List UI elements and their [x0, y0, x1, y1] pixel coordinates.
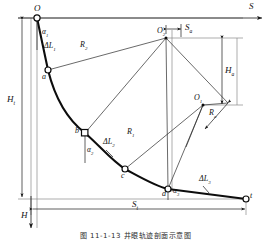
node-label-O1: O1 — [194, 94, 202, 105]
angle-reference-ticks — [37, 18, 168, 200]
node-t — [243, 196, 249, 202]
dimension-Sa — [166, 24, 181, 37]
dimension-label-Sa: Sa — [185, 23, 192, 34]
segment-label-delta-L2: ΔL2 — [103, 138, 115, 149]
node-label-c: c — [121, 172, 125, 180]
angle-label-alpha-1: α1 — [42, 28, 48, 38]
node-label-O2: O2 — [157, 27, 165, 38]
angle-label-alpha-3: α3 — [173, 187, 179, 197]
radius-label-R2: R2 — [80, 41, 87, 52]
segment-label-delta-L1: ΔL1 — [44, 42, 56, 53]
radius-label-Ra: Ra — [209, 109, 216, 120]
radius-label-R1: R1 — [127, 128, 134, 139]
segment-label-delta-L3: ΔL3 — [199, 175, 211, 186]
dimension-label-St: St — [132, 200, 138, 211]
curve-nodes — [34, 15, 249, 202]
angle-label-alpha-2: α2 — [87, 146, 93, 156]
node-O — [34, 15, 40, 21]
node-label-a: a — [42, 73, 46, 81]
node-label-b: b — [75, 127, 79, 135]
node-label-t: t — [250, 192, 252, 200]
figure-caption: 图 11-1-13 井眼轨迹剖面示意图 — [0, 230, 271, 240]
well-trajectory-diagram: S H O a b c d t O2 O1 α1 α2 α3 ΔL1 ΔL2 Δ… — [0, 0, 271, 241]
dimension-label-Ha: Ha — [225, 66, 234, 77]
node-b — [82, 130, 88, 136]
axis-label-H: H — [21, 211, 28, 220]
dimension-label-Ht: Ht — [7, 95, 15, 106]
radii-from-O2 — [48, 38, 228, 189]
node-label-O: O — [34, 4, 41, 13]
node-label-d: d — [162, 190, 166, 198]
axis-label-S: S — [249, 2, 254, 11]
